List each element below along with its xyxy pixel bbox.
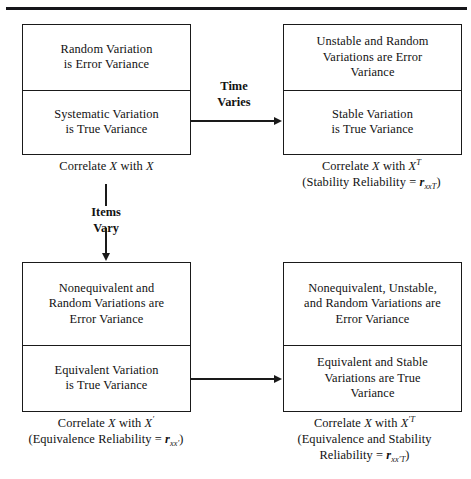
caption-equivalence-and-stability: Correlate X with X′T (Equivalence and St… [258, 415, 471, 463]
arrow-items-vary-shaft-lower [105, 228, 107, 254]
arrow-time-varies-head-icon [274, 117, 282, 125]
items-label-line1: Items [91, 205, 121, 219]
caption-equivalence: Correlate X with X′ (Equivalence Reliabi… [0, 415, 212, 447]
caption-tl-mid: with [117, 159, 146, 173]
box-tr-true-line2: is True Variance [332, 122, 414, 136]
header-rule [6, 7, 467, 10]
caption-tr-var1: X [372, 159, 380, 173]
caption-br-line3: Reliability = rxx′T) [258, 447, 471, 463]
box-bl-error-cell: Nonequivalent and Random Variations are … [23, 263, 190, 345]
caption-bl-var2-prime: ′ [152, 414, 154, 424]
caption-br-line3-suffix: ) [405, 448, 409, 462]
diagram-canvas: Random Variation is Error Variance Syste… [0, 0, 471, 479]
box-tl-error-line2: is Error Variance [64, 57, 149, 71]
time-label-line1: Time [220, 79, 247, 93]
caption-br-mid: with [372, 416, 401, 430]
caption-br-r-subscript: xx [391, 456, 398, 465]
box-equivalence: Nonequivalent and Random Variations are … [22, 262, 191, 412]
arrow-items-vary-head-icon [102, 253, 110, 261]
caption-bl-line1: Correlate X with X′ [0, 415, 212, 431]
box-bl-true-cell: Equivalent Variation is True Variance [23, 345, 190, 411]
caption-br-line2: (Equivalence and Stability [258, 431, 471, 447]
caption-br-var1: X [364, 416, 372, 430]
caption-bl-prefix: Correlate [58, 416, 108, 430]
box-tr-error-line2: Variations are Error [323, 50, 423, 64]
caption-tr-r-subscript: xx [424, 183, 431, 192]
caption-tr-line1: Correlate X with XT [272, 158, 471, 174]
arrow-bottom-head-icon [274, 375, 282, 383]
caption-tl-line1: Correlate X with X [8, 158, 205, 174]
box-br-true-line1: Equivalent and Stable [317, 355, 428, 369]
box-internal-consistency: Random Variation is Error Variance Syste… [22, 24, 191, 155]
caption-bl-var1: X [108, 416, 116, 430]
box-tl-true-cell: Systematic Variation is True Variance [23, 90, 190, 154]
box-bl-true-line2: is True Variance [66, 378, 148, 392]
time-label-line2: Varies [217, 95, 250, 109]
box-br-true-cell: Equivalent and Stable Variations are Tru… [284, 345, 461, 411]
box-tr-true-cell: Stable Variation is True Variance [284, 90, 461, 154]
arrow-time-varies-shaft [191, 120, 275, 122]
box-stability: Unstable and Random Variations are Error… [283, 24, 462, 155]
caption-tr-var2-sup: T [416, 157, 421, 167]
box-tr-error-line3: Variance [350, 65, 394, 79]
caption-bl-mid: with [116, 416, 145, 430]
box-tr-error-line1: Unstable and Random [316, 34, 428, 48]
box-br-error-cell: Nonequivalent, Unstable, and Random Vari… [284, 263, 461, 345]
caption-tl-prefix: Correlate [59, 159, 109, 173]
caption-stability: Correlate X with XT (Stability Reliabili… [272, 158, 471, 190]
box-tr-true-line1: Stable Variation [332, 107, 413, 121]
caption-br-line3-prefix: Reliability = [319, 448, 386, 462]
caption-tr-prefix: Correlate [322, 159, 372, 173]
caption-bl-line2: (Equivalence Reliability = rxx′) [0, 431, 212, 447]
caption-tr-line2-prefix: (Stability Reliability = [302, 175, 419, 189]
caption-tr-line2-suffix: ) [437, 175, 441, 189]
box-tl-true-line2: is True Variance [66, 122, 148, 136]
connector-label-time-varies: Time Varies [188, 79, 280, 110]
box-tr-error-cell: Unstable and Random Variations are Error… [284, 25, 461, 90]
box-tl-error-line1: Random Variation [61, 42, 153, 56]
caption-bl-line2-prefix: (Equivalence Reliability = [28, 432, 165, 446]
box-br-true-line3: Variance [350, 386, 394, 400]
arrow-items-vary-shaft-upper [105, 184, 107, 206]
box-bl-error-line1: Nonequivalent and [59, 281, 155, 295]
caption-br-var2-sup: T [410, 414, 415, 424]
caption-tl-var2: X [146, 159, 154, 173]
caption-internal-consistency: Correlate X with X [8, 158, 205, 174]
box-equivalence-and-stability: Nonequivalent, Unstable, and Random Vari… [283, 262, 462, 412]
box-br-error-line1: Nonequivalent, Unstable, [308, 281, 437, 295]
box-br-error-line2: and Random Variations are [304, 296, 441, 310]
box-bl-error-line2: Random Variations are [49, 296, 164, 310]
box-tl-true-line1: Systematic Variation [54, 107, 159, 121]
box-br-error-line3: Error Variance [336, 312, 410, 326]
box-bl-error-line3: Error Variance [70, 312, 144, 326]
box-br-true-line2: Variations are True [324, 371, 420, 385]
arrow-bottom-shaft [191, 378, 275, 380]
caption-br-prefix: Correlate [314, 416, 364, 430]
caption-bl-line2-suffix: ) [179, 432, 183, 446]
caption-br-line1: Correlate X with X′T [258, 415, 471, 431]
box-tl-error-cell: Random Variation is Error Variance [23, 25, 190, 90]
box-bl-true-line1: Equivalent Variation [55, 363, 159, 377]
caption-tr-line2: (Stability Reliability = rxxT) [272, 174, 471, 190]
caption-tr-mid: with [380, 159, 409, 173]
